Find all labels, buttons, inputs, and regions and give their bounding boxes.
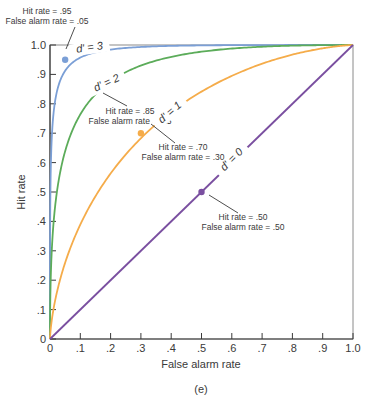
callout-text-dprime-3: False alarm rate = .05 [6, 16, 89, 26]
callout-leader-dprime-2 [103, 93, 127, 106]
x-tick-label: .3 [136, 342, 145, 354]
x-tick-label: 0 [47, 342, 53, 354]
x-axis-ticks: 0.1.2.3.4.5.6.7.8.91.0 [47, 333, 361, 354]
y-tick-label: 0 [40, 333, 46, 345]
x-tick-label: .1 [76, 342, 85, 354]
x-tick-label: .5 [197, 342, 206, 354]
y-tick-label: .9 [37, 68, 46, 80]
x-tick-label: .2 [106, 342, 115, 354]
callout-text-dprime-0: Hit rate = .50 [219, 212, 268, 222]
x-tick-label: .4 [167, 342, 176, 354]
x-tick-label: .7 [258, 342, 267, 354]
highlight-point-dprime-3 [62, 57, 68, 63]
x-axis-title: False alarm rate [161, 358, 240, 370]
x-tick-label: .6 [227, 342, 236, 354]
callout-text-dprime-0: False alarm rate = .50 [202, 222, 285, 232]
callout-leader-dprime-0 [209, 195, 238, 213]
y-tick-label: .8 [37, 98, 46, 110]
callout-text-dprime-3: Hit rate = .95 [23, 6, 72, 16]
callout-text-dprime-1: Hit rate = .70 [159, 142, 208, 152]
y-tick-label: .2 [37, 274, 46, 286]
y-tick-label: .6 [37, 157, 46, 169]
y-tick-label: .3 [37, 245, 46, 257]
curve-label-group-dprime-3: d' = 3 [69, 38, 110, 56]
y-tick-label: .5 [37, 186, 46, 198]
curve-label-dprime-2: d' = 2 [92, 71, 121, 93]
callout-text-dprime-1: False alarm rate = .30 [142, 152, 225, 162]
y-tick-label: 1.0 [31, 39, 46, 51]
highlight-point-dprime-0 [198, 189, 204, 195]
y-axis-title: Hit rate [15, 174, 27, 209]
x-tick-label: .9 [318, 342, 327, 354]
panel-label: (e) [194, 383, 207, 395]
callout-leader-dprime-1 [151, 124, 175, 143]
y-tick-label: .1 [37, 304, 46, 316]
curve-label-group-dprime-2: d' = 2 [86, 68, 128, 97]
annotations: d' = 3Hit rate = .95False alarm rate = .… [6, 6, 285, 232]
callout-text-dprime-2: Hit rate = .85 [106, 106, 155, 116]
highlight-point-dprime-1 [138, 130, 144, 136]
x-tick-label: .8 [288, 342, 297, 354]
roc-chart: 0.1.2.3.4.5.6.7.8.91.0 0.1.2.3.4.5.6.7.8… [0, 0, 375, 410]
x-tick-label: 1.0 [345, 342, 360, 354]
y-axis-ticks: 0.1.2.3.4.5.6.7.8.91.0 [31, 39, 56, 345]
y-tick-label: .7 [37, 127, 46, 139]
y-tick-label: .4 [37, 215, 46, 227]
